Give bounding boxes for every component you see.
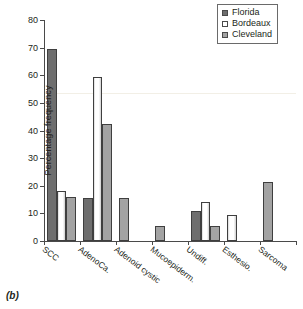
legend-item-cleveland: Cleveland — [222, 29, 272, 40]
y-tick-label: 10 — [28, 209, 38, 218]
bar-cleveland-4 — [210, 226, 220, 241]
scan-artifact-line — [44, 93, 296, 94]
legend-item-label: Florida — [232, 8, 260, 17]
chart-legend: FloridaBordeauxCleveland — [217, 4, 278, 44]
y-tick-label: 20 — [28, 181, 38, 190]
legend-swatch-icon — [222, 10, 228, 16]
x-axis-line — [44, 241, 296, 242]
bar-bordeaux-5 — [227, 215, 237, 241]
bar-chart-figure: 01020304050607080 SCCAdenoCa.Adenoid cys… — [0, 0, 303, 309]
y-axis-title: Percentage frequency — [42, 20, 54, 241]
bar-cleveland-1 — [102, 124, 112, 241]
x-axis-label-0: SCC — [41, 245, 60, 263]
y-tick-label: 0 — [33, 237, 38, 246]
legend-swatch-icon — [222, 21, 228, 27]
bar-florida-4 — [191, 211, 201, 241]
y-tick-label: 40 — [28, 126, 38, 135]
y-tick-label: 70 — [28, 43, 38, 52]
x-axis-label-4: Undiff. — [185, 245, 210, 266]
bar-cleveland-2 — [119, 198, 129, 241]
legend-swatch-icon — [222, 32, 228, 38]
y-tick-label: 60 — [28, 71, 38, 80]
legend-item-florida: Florida — [222, 7, 272, 18]
x-tick-mark — [296, 241, 297, 245]
figure-caption: (b) — [6, 290, 19, 301]
x-axis-label-5: Esthesio. — [221, 245, 254, 273]
y-tick-label: 30 — [28, 154, 38, 163]
y-tick-label: 50 — [28, 98, 38, 107]
bar-bordeaux-0 — [57, 191, 67, 241]
bar-bordeaux-1 — [93, 77, 103, 241]
x-axis-label-1: AdenoCa. — [77, 245, 112, 275]
x-axis-label-6: Sarcoma — [257, 245, 289, 272]
legend-item-label: Bordeaux — [232, 19, 271, 28]
bar-florida-1 — [83, 198, 93, 241]
bar-bordeaux-4 — [201, 202, 211, 241]
legend-item-label: Cleveland — [232, 30, 272, 39]
legend-item-bordeaux: Bordeaux — [222, 18, 272, 29]
plot-area: 01020304050607080 SCCAdenoCa.Adenoid cys… — [44, 20, 296, 241]
bar-cleveland-3 — [155, 226, 165, 241]
bar-cleveland-6 — [263, 182, 273, 241]
y-tick-label: 80 — [28, 16, 38, 25]
bar-cleveland-0 — [66, 197, 76, 241]
